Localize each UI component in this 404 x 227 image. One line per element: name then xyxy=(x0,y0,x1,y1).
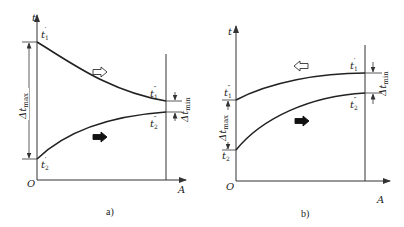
hot-fluid-curve xyxy=(236,73,365,100)
t1-in-label: t1′ xyxy=(41,26,49,41)
hollow-arrow-left-icon xyxy=(294,61,308,71)
caption-a: a) xyxy=(106,206,114,218)
t2-out-label: t2″ xyxy=(350,96,358,111)
dt-max-label: Δtmax xyxy=(17,88,30,120)
t1-in-label: t1′ xyxy=(350,57,358,72)
heat-exchanger-temperature-diagrams: t O A Δtmax Δtmin t1′ t1″ t2′ t2″ xyxy=(0,0,404,227)
diagram-a-parallel-flow: t O A Δtmax Δtmin t1′ t1″ t2′ t2″ xyxy=(17,12,192,218)
y-axis-label: t xyxy=(228,26,233,37)
x-axis-label: A xyxy=(376,194,384,205)
solid-arrow-right-icon xyxy=(93,132,107,142)
t2-in-label: t2′ xyxy=(222,147,230,162)
solid-arrow-right-icon xyxy=(295,116,309,126)
t2-in-label: t2′ xyxy=(41,156,49,171)
svg-text:Δtmin: Δtmin xyxy=(377,71,390,97)
caption-b: b) xyxy=(301,208,309,220)
t2-out-label: t2″ xyxy=(150,115,158,130)
origin-label: O xyxy=(226,181,234,192)
y-axis-label: t xyxy=(32,12,37,23)
origin-label: O xyxy=(27,178,35,189)
diagram-b-counter-flow: t O A Δtmax Δtmin t1′ t1″ t2′ t2″ b) xyxy=(217,26,390,220)
dt-min-label: Δtmin xyxy=(377,71,390,97)
t1-out-label: t1″ xyxy=(224,84,232,99)
x-axis-label: A xyxy=(177,184,185,195)
dt-max-label: Δtmax xyxy=(217,110,230,142)
t1-out-label: t1″ xyxy=(150,85,158,100)
hollow-arrow-right-icon xyxy=(93,67,107,77)
